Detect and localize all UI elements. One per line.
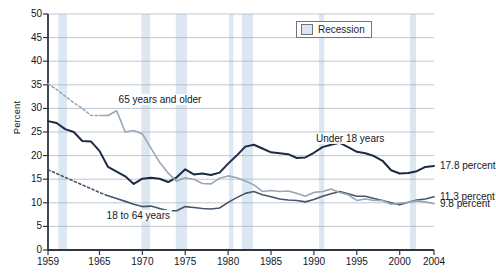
y-axis-ticks: 05101520253035404550 <box>0 0 42 278</box>
x-tick-label: 1980 <box>208 256 248 267</box>
y-tick-label: 0 <box>16 245 42 255</box>
y-tick-label: 40 <box>16 56 42 66</box>
legend-label-recession: Recession <box>318 24 365 35</box>
series-line-under-18-years <box>48 121 434 184</box>
y-tick-label: 20 <box>16 151 42 161</box>
annotation-under-18: Under 18 years <box>314 133 386 144</box>
x-tick-label: 1985 <box>251 256 291 267</box>
x-tick-label: 1990 <box>294 256 334 267</box>
y-tick-label: 25 <box>16 127 42 137</box>
x-tick-label: 1965 <box>79 256 119 267</box>
y-tick-label: 15 <box>16 174 42 184</box>
x-tick-label: 1995 <box>337 256 377 267</box>
legend-recession: Recession <box>296 21 372 38</box>
series-line-dashed-65-years-and-older <box>48 84 99 116</box>
recession-swatch-icon <box>301 24 313 35</box>
y-tick-label: 10 <box>16 198 42 208</box>
y-tick-label: 5 <box>16 221 42 231</box>
series-line-dashed-18-to-64-years <box>48 170 108 196</box>
annotation-18-to-64: 18 to 64 years <box>105 210 172 221</box>
x-tick-label: 1959 <box>28 256 68 267</box>
y-tick-label: 30 <box>16 103 42 113</box>
y-tick-label: 45 <box>16 33 42 43</box>
end-label-65-and-older: 9.8 percent <box>440 198 490 209</box>
x-tick-label: 1970 <box>122 256 162 267</box>
x-tick-label: 1975 <box>165 256 205 267</box>
x-tick-label: 2004 <box>414 256 454 267</box>
y-tick-label: 35 <box>16 80 42 90</box>
annotation-65-and-older: 65 years and older <box>117 94 204 105</box>
y-tick-label: 50 <box>16 9 42 19</box>
end-label-under-18: 17.8 percent <box>440 160 496 171</box>
